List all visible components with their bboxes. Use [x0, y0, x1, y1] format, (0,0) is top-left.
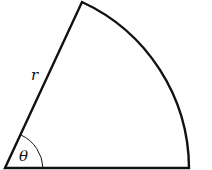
radius-label: r	[31, 66, 39, 84]
angle-label: θ	[19, 147, 28, 165]
sector-diagram: r θ	[0, 0, 212, 170]
